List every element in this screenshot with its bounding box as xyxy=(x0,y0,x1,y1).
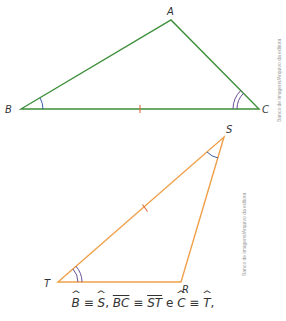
vertex-t-label: T xyxy=(44,278,51,289)
equiv-symbol: ≡ xyxy=(84,296,94,310)
triangle-tsr: S T R xyxy=(44,124,233,295)
image-credit-bottom: Banco de imagens/Arquivo da editora xyxy=(241,193,247,276)
triangle-abc: A B C xyxy=(5,6,269,115)
image-credit-top: Banco de imagens/Arquivo da editora xyxy=(276,39,282,122)
congruence-caption: B ≡ S, BC ≡ ST e C ≡ T, xyxy=(0,296,286,310)
vertex-b-label: B xyxy=(5,104,12,115)
angle-t-arc-inner xyxy=(73,269,78,282)
angle-t: T xyxy=(203,296,210,310)
vertex-c-label: C xyxy=(262,104,269,115)
angle-b: B xyxy=(72,296,80,310)
vertex-a-label: A xyxy=(166,6,174,17)
vertex-s-label: S xyxy=(226,124,233,135)
angle-t-arc-outer xyxy=(76,266,82,282)
segment-st: ST xyxy=(147,296,162,310)
angle-s-arc xyxy=(207,152,218,158)
angle-c-arc-inner xyxy=(237,93,244,109)
conjunction: e xyxy=(166,296,173,310)
angle-b-arc xyxy=(40,98,43,109)
angle-s: S xyxy=(98,296,106,310)
equiv-symbol: ≡ xyxy=(189,296,199,310)
equiv-symbol: ≡ xyxy=(133,296,143,310)
segment-bc: BC xyxy=(113,296,130,310)
angle-c: C xyxy=(177,296,185,310)
